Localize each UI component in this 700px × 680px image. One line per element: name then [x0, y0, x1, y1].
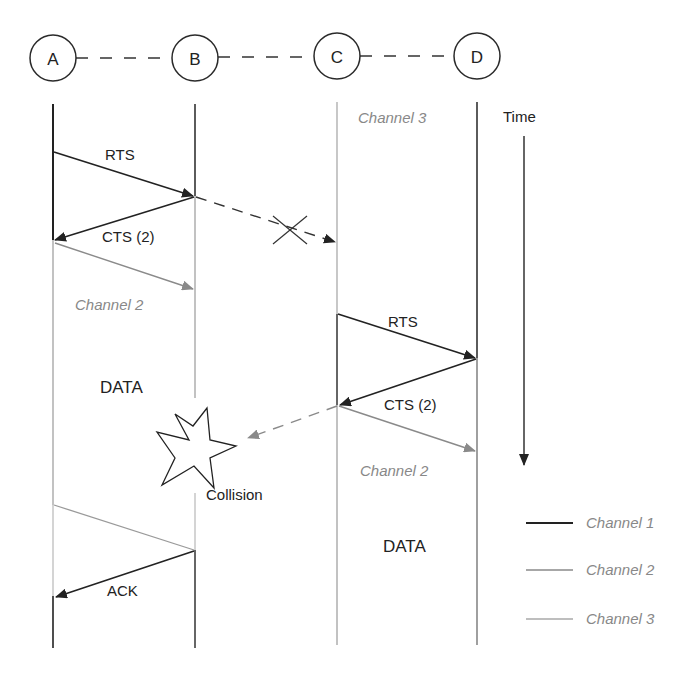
cts-b-to-a-label: CTS (2) [102, 228, 155, 245]
collision-star-icon [157, 408, 236, 488]
channel2-right-label: Channel 2 [360, 462, 429, 479]
rts-a-to-b-label: RTS [105, 146, 135, 163]
cts-overhear-b-to-c-arrow [196, 197, 335, 242]
rts-cts-multichannel-diagram: A B C D Channel 3 Time [0, 0, 700, 680]
legend-label-channel2: Channel 2 [586, 561, 655, 578]
cts-d-to-c-label: CTS (2) [384, 396, 437, 413]
node-b-label: B [189, 50, 200, 69]
channel3-top-label: Channel 3 [358, 109, 427, 126]
rts-c-to-d-label: RTS [388, 313, 418, 330]
channel2-switch-a-to-b-arrow [55, 243, 193, 289]
legend-item-channel3: Channel 3 [526, 610, 655, 627]
node-a: A [30, 35, 76, 81]
node-d-label: D [471, 48, 483, 67]
node-c-label: C [331, 48, 343, 67]
node-b: B [172, 35, 218, 81]
data-left-label: DATA [100, 378, 143, 397]
legend-item-channel2: Channel 2 [526, 561, 655, 578]
node-c: C [314, 33, 360, 79]
channel2-left-label: Channel 2 [75, 296, 144, 313]
data-right-label: DATA [383, 537, 426, 556]
node-a-label: A [47, 50, 59, 69]
legend-label-channel3: Channel 3 [586, 610, 655, 627]
time-label: Time [503, 108, 536, 125]
ack-label: ACK [107, 582, 138, 599]
legend-item-channel1: Channel 1 [526, 514, 654, 531]
node-d: D [454, 33, 500, 79]
collision-label: Collision [206, 486, 263, 503]
legend: Channel 1 Channel 2 Channel 3 [526, 514, 655, 627]
cts-overhear-c-to-a-arrow [248, 406, 337, 438]
node-links [76, 56, 454, 58]
legend-label-channel1: Channel 1 [586, 514, 654, 531]
blocked-x-icon [273, 216, 307, 244]
data-end-line [54, 505, 194, 550]
